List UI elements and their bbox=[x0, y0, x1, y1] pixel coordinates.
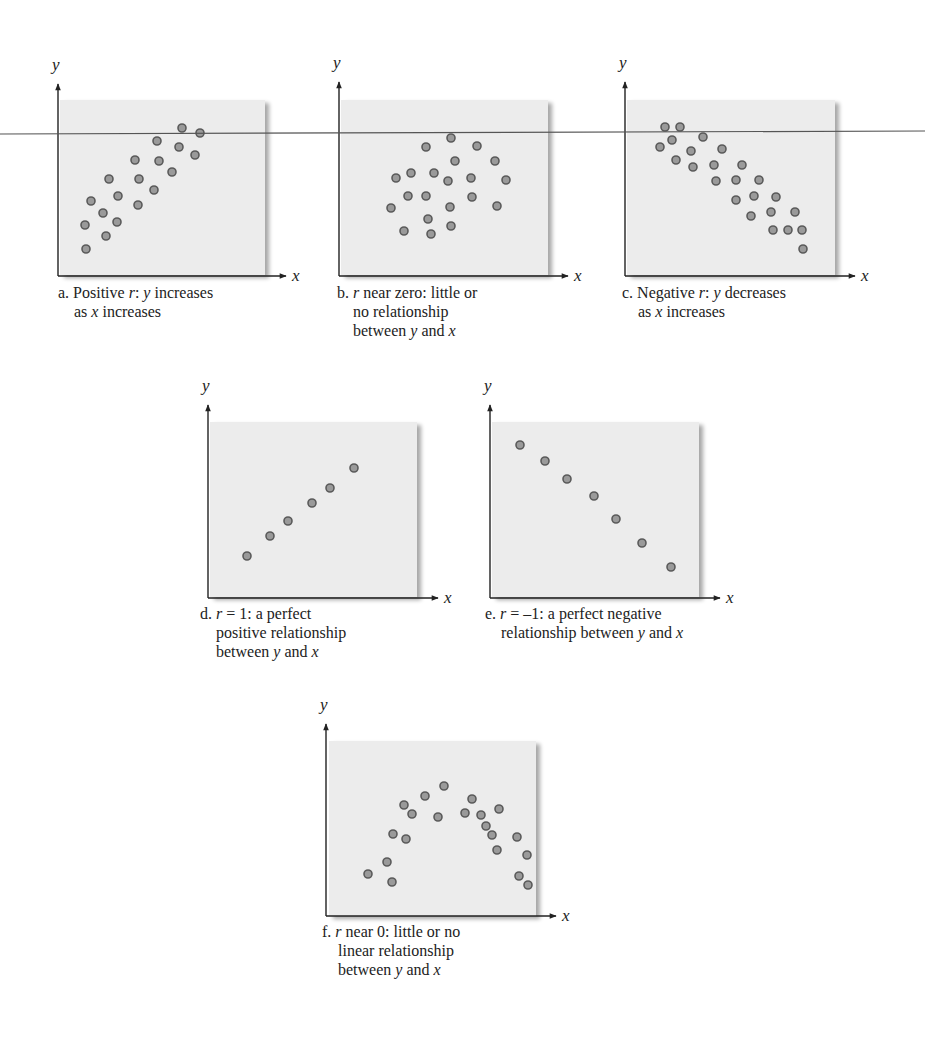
data-point bbox=[515, 872, 523, 880]
data-point bbox=[284, 517, 292, 525]
data-point bbox=[400, 227, 408, 235]
data-point bbox=[524, 881, 532, 889]
scatter-panel-e: yx bbox=[482, 376, 734, 607]
data-point bbox=[477, 811, 485, 819]
data-point bbox=[114, 192, 122, 200]
data-point bbox=[387, 204, 395, 212]
data-point bbox=[134, 201, 142, 209]
data-point bbox=[430, 169, 438, 177]
data-point bbox=[175, 143, 183, 151]
data-point bbox=[102, 232, 110, 240]
correlation-figure: yxyxyxyxyxyx bbox=[0, 0, 925, 1049]
data-point bbox=[468, 795, 476, 803]
data-point bbox=[364, 870, 372, 878]
plot-area bbox=[329, 741, 536, 916]
data-point bbox=[772, 193, 780, 201]
data-point bbox=[87, 197, 95, 205]
caption-line: between y and x bbox=[337, 321, 477, 340]
data-point bbox=[502, 176, 510, 184]
data-point bbox=[383, 858, 391, 866]
data-point bbox=[784, 226, 792, 234]
data-point bbox=[738, 161, 746, 169]
data-point bbox=[131, 156, 139, 164]
data-point bbox=[427, 230, 435, 238]
caption-line: f. r near 0: little or no bbox=[322, 922, 460, 941]
caption-line: as x increases bbox=[622, 302, 786, 321]
data-point bbox=[769, 226, 777, 234]
caption-line: c. Negative r: y decreases bbox=[622, 283, 786, 302]
data-point bbox=[491, 157, 499, 165]
data-point bbox=[732, 176, 740, 184]
scatter-panel-f: yx bbox=[318, 695, 570, 925]
data-point bbox=[710, 161, 718, 169]
x-axis-label: x bbox=[860, 266, 869, 285]
data-point bbox=[672, 156, 680, 164]
data-point bbox=[81, 221, 89, 229]
data-point bbox=[404, 192, 412, 200]
data-point bbox=[446, 203, 454, 211]
caption-line: between y and x bbox=[322, 960, 460, 979]
data-point bbox=[767, 208, 775, 216]
data-point bbox=[424, 215, 432, 223]
data-point bbox=[447, 134, 455, 142]
data-point bbox=[493, 202, 501, 210]
data-point bbox=[699, 133, 707, 141]
caption-line: positive relationship bbox=[200, 623, 346, 642]
data-point bbox=[421, 792, 429, 800]
caption-line: between y and x bbox=[200, 642, 346, 661]
data-point bbox=[105, 175, 113, 183]
data-point bbox=[668, 136, 676, 144]
data-point bbox=[516, 441, 524, 449]
scatter-panel-c: yx bbox=[617, 53, 869, 285]
caption-d: d. r = 1: a perfectpositive relationship… bbox=[200, 604, 346, 661]
caption-line: d. r = 1: a perfect bbox=[200, 604, 346, 623]
data-point bbox=[590, 492, 598, 500]
data-point bbox=[482, 822, 490, 830]
data-point bbox=[422, 143, 430, 151]
caption-line: no relationship bbox=[337, 302, 477, 321]
data-point bbox=[389, 830, 397, 838]
caption-line: b. r near zero: little or bbox=[337, 283, 477, 302]
data-point bbox=[135, 175, 143, 183]
y-axis-label: y bbox=[318, 695, 328, 714]
caption-line: relationship between y and x bbox=[485, 623, 683, 642]
caption-line: linear relationship bbox=[322, 941, 460, 960]
data-point bbox=[434, 813, 442, 821]
data-point bbox=[407, 169, 415, 177]
data-point bbox=[388, 878, 396, 886]
data-point bbox=[308, 499, 316, 507]
data-point bbox=[408, 810, 416, 818]
data-point bbox=[667, 563, 675, 571]
data-point bbox=[468, 193, 476, 201]
data-point bbox=[661, 123, 669, 131]
data-point bbox=[402, 835, 410, 843]
data-point bbox=[612, 515, 620, 523]
data-point bbox=[513, 833, 521, 841]
data-point bbox=[687, 147, 695, 155]
data-point bbox=[656, 143, 664, 151]
data-point bbox=[178, 124, 186, 132]
y-axis-label: y bbox=[50, 55, 60, 74]
data-point bbox=[99, 209, 107, 217]
scatter-panel-d: yx bbox=[200, 376, 452, 607]
data-point bbox=[798, 226, 806, 234]
caption-a: a. Positive r: y increasesas x increases bbox=[58, 283, 213, 321]
data-point bbox=[444, 177, 452, 185]
data-point bbox=[113, 218, 121, 226]
data-point bbox=[266, 532, 274, 540]
x-axis-label: x bbox=[725, 588, 734, 607]
plot-area bbox=[341, 100, 548, 275]
data-point bbox=[755, 176, 763, 184]
data-point bbox=[82, 245, 90, 253]
data-point bbox=[350, 464, 358, 472]
caption-line: a. Positive r: y increases bbox=[58, 283, 213, 302]
y-axis-label: y bbox=[482, 376, 492, 395]
data-point bbox=[676, 123, 684, 131]
data-point bbox=[718, 145, 726, 153]
x-axis-label: x bbox=[561, 906, 570, 925]
data-point bbox=[689, 163, 697, 171]
y-axis-label: y bbox=[331, 53, 341, 72]
caption-c: c. Negative r: y decreasesas x increases bbox=[622, 283, 786, 321]
data-point bbox=[168, 168, 176, 176]
data-point bbox=[467, 174, 475, 182]
